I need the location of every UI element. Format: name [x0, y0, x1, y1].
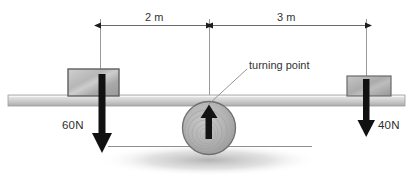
dimension-label-right: 3 m: [277, 12, 295, 23]
dimension-label-left: 2 m: [145, 12, 163, 23]
right-force-label: 40N: [378, 120, 400, 132]
left-block: [68, 69, 119, 96]
turning-point-label: turning point: [249, 60, 310, 71]
lever-diagram-svg: [0, 0, 412, 183]
fulcrum: [183, 102, 236, 155]
diagram-canvas: 2 m 3 m turning point 60N 40N: [0, 0, 412, 183]
left-force-label: 60N: [62, 120, 84, 132]
